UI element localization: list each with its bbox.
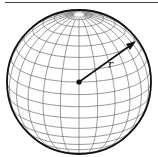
center-point	[76, 79, 81, 84]
sphere-diagram	[0, 0, 158, 157]
radius-label: r	[108, 58, 113, 71]
